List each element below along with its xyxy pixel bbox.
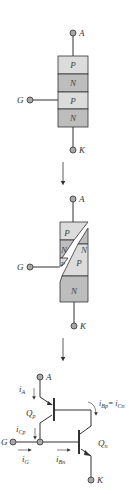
- current-label-icp: iCp: [16, 424, 26, 435]
- left-layer-n-label: N: [60, 245, 68, 255]
- thyristor-diagram: A P N P N G K A P N P N P N: [0, 0, 135, 494]
- cathode-terminal: [88, 477, 94, 483]
- cathode-label: K: [78, 145, 86, 155]
- gate-terminal: [27, 97, 33, 103]
- junction-node: [37, 439, 43, 445]
- right-layer-p-label: P: [75, 258, 82, 268]
- anode-label: A: [78, 28, 85, 38]
- layer-p2-label: P: [69, 96, 76, 106]
- anode-terminal: [70, 30, 76, 36]
- anode-label: A: [78, 194, 85, 204]
- layer-n2-label: N: [69, 113, 77, 123]
- right-layer-n2-label: N: [70, 286, 78, 296]
- qp-collector: [40, 415, 52, 440]
- current-label-ibn: iBn: [56, 454, 65, 465]
- qp-emitter-arrow-icon: [47, 401, 53, 405]
- right-layer-n-label: N: [80, 245, 88, 255]
- left-layer-p2-label: P: [60, 260, 66, 268]
- qp-label: Qp: [26, 408, 36, 419]
- current-label-ia: iA: [19, 384, 26, 395]
- left-layer-p-label: P: [63, 228, 70, 238]
- qp-base-qn-collector-wire: [54, 410, 91, 434]
- gate-label: G: [17, 262, 24, 272]
- qn-emitter-arrow-icon: [84, 450, 91, 456]
- anode-terminal: [37, 374, 43, 380]
- qp-emitter: [40, 380, 52, 405]
- panel-pnpn-structure: A P N P N G K: [17, 28, 88, 155]
- current-label-ig: iG: [22, 454, 30, 465]
- anode-terminal: [70, 196, 76, 202]
- layer-p1-label: P: [69, 60, 76, 70]
- cathode-label: K: [79, 321, 87, 331]
- current-arrow-icon: [88, 402, 96, 414]
- panel-split-structure: A P N P N P N G K: [17, 194, 88, 331]
- current-label-ibp-icn: iBp= iCn: [99, 399, 125, 409]
- gate-terminal: [10, 439, 16, 445]
- panel-two-transistor-model: A iA Qp iBp= iCn iCp G iG iBn Qn: [1, 372, 125, 485]
- qn-label: Qn: [98, 438, 108, 449]
- cathode-terminal: [70, 147, 76, 153]
- cathode-terminal: [71, 323, 77, 329]
- cathode-label: K: [96, 475, 104, 485]
- gate-terminal: [27, 264, 33, 270]
- gate-label: G: [17, 95, 24, 105]
- gate-label: G: [1, 437, 8, 447]
- anode-label: A: [45, 372, 52, 382]
- layer-n1-label: N: [69, 78, 77, 88]
